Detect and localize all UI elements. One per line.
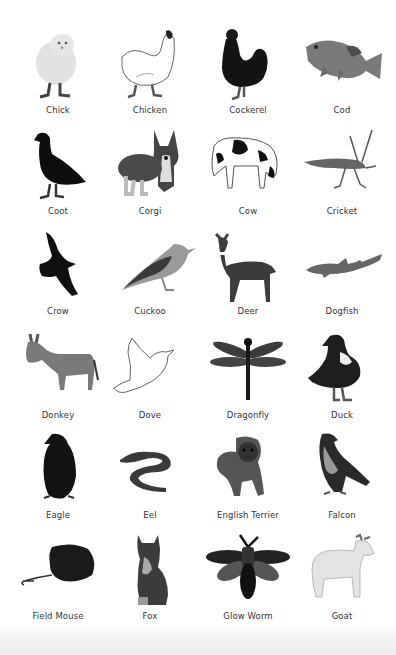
animal-label: Glow Worm: [200, 611, 296, 621]
glow-worm-icon: [200, 533, 296, 611]
tile-falcon[interactable]: Falcon: [294, 430, 390, 530]
animal-label: Donkey: [10, 410, 106, 420]
chicken-icon: [102, 25, 198, 103]
tile-glow-worm[interactable]: Glow Worm: [200, 533, 296, 633]
animal-label: Cricket: [294, 206, 390, 216]
tile-corgi[interactable]: Corgi: [102, 126, 198, 226]
fox-icon: [102, 533, 198, 611]
animal-grid: Chick Chicken Cockerel Cod Coot Corgi: [0, 0, 396, 655]
english-terrier-icon: [200, 430, 296, 508]
field-mouse-icon: [10, 533, 106, 611]
tile-goat[interactable]: Goat: [294, 533, 390, 633]
tile-coot[interactable]: Coot: [10, 126, 106, 226]
animal-label: Dragonfly: [200, 410, 296, 420]
tile-eagle[interactable]: Eagle: [10, 430, 106, 530]
tile-crow[interactable]: Crow: [10, 230, 106, 330]
dragonfly-icon: [200, 330, 296, 408]
tile-cod[interactable]: Cod: [294, 25, 390, 125]
tile-dogfish[interactable]: Dogfish: [294, 230, 390, 330]
animal-label: Falcon: [294, 510, 390, 520]
tile-cuckoo[interactable]: Cuckoo: [102, 230, 198, 330]
tile-fox[interactable]: Fox: [102, 533, 198, 633]
crow-icon: [10, 230, 106, 308]
animal-label: Cockerel: [200, 105, 296, 115]
animal-label: Corgi: [102, 206, 198, 216]
eagle-icon: [10, 430, 106, 508]
eel-icon: [102, 430, 198, 508]
goat-icon: [294, 533, 390, 611]
cod-icon: [294, 25, 390, 103]
duck-icon: [294, 330, 390, 408]
animal-label: Fox: [102, 611, 198, 621]
animal-label: Crow: [10, 306, 106, 316]
tile-field-mouse[interactable]: Field Mouse: [10, 533, 106, 633]
tile-cricket[interactable]: Cricket: [294, 126, 390, 226]
animal-label: Eagle: [10, 510, 106, 520]
animal-label: Chicken: [102, 105, 198, 115]
animal-label: Eel: [102, 510, 198, 520]
tile-english-terrier[interactable]: English Terrier: [200, 430, 296, 530]
tile-dragonfly[interactable]: Dragonfly: [200, 330, 296, 430]
animal-label: Cow: [200, 206, 296, 216]
tile-dove[interactable]: Dove: [102, 330, 198, 430]
corgi-icon: [102, 126, 198, 204]
falcon-icon: [294, 430, 390, 508]
animal-label: Chick: [10, 105, 106, 115]
tile-duck[interactable]: Duck: [294, 330, 390, 430]
tile-chick[interactable]: Chick: [10, 25, 106, 125]
cockerel-icon: [200, 25, 296, 103]
animal-label: Field Mouse: [10, 611, 106, 621]
animal-label: Goat: [294, 611, 390, 621]
animal-label: Dogfish: [294, 306, 390, 316]
chick-icon: [10, 25, 106, 103]
cuckoo-icon: [102, 230, 198, 308]
animal-label: Cod: [294, 105, 390, 115]
tile-cow[interactable]: Cow: [200, 126, 296, 226]
dogfish-icon: [294, 230, 390, 308]
tile-cockerel[interactable]: Cockerel: [200, 25, 296, 125]
tile-donkey[interactable]: Donkey: [10, 330, 106, 430]
tile-deer[interactable]: Deer: [200, 230, 296, 330]
animal-label: Coot: [10, 206, 106, 216]
cow-icon: [200, 126, 296, 204]
animal-label: Cuckoo: [102, 306, 198, 316]
tile-eel[interactable]: Eel: [102, 430, 198, 530]
tile-chicken[interactable]: Chicken: [102, 25, 198, 125]
coot-icon: [10, 126, 106, 204]
animal-label: English Terrier: [200, 510, 296, 520]
animal-label: Dove: [102, 410, 198, 420]
cricket-icon: [294, 126, 390, 204]
donkey-icon: [10, 330, 106, 408]
dove-icon: [102, 330, 198, 408]
deer-icon: [200, 230, 296, 308]
animal-label: Duck: [294, 410, 390, 420]
animal-label: Deer: [200, 306, 296, 316]
